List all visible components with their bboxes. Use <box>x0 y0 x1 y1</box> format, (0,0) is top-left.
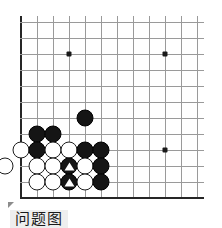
stone-white-c1-r10[interactable] <box>29 174 46 191</box>
stone-black-c4-r6[interactable] <box>77 110 94 127</box>
stone-white-c4-r9[interactable] <box>77 158 94 175</box>
board-line-horizontal-3 <box>20 70 204 71</box>
triangle-mark-icon <box>64 162 74 170</box>
caption-area: 问题图 <box>0 198 222 228</box>
board-line-vertical-10 <box>181 16 182 198</box>
stone-black-c2-r7[interactable] <box>45 126 62 143</box>
stone-black-marked-c3-r9[interactable] <box>61 158 78 175</box>
stone-black-c5-r8[interactable] <box>93 142 110 159</box>
stone-black-marked-c3-r10[interactable] <box>61 174 78 191</box>
stone-black-c5-r9[interactable] <box>93 158 110 175</box>
board-line-vertical-6 <box>117 16 118 198</box>
board-line-horizontal-5 <box>20 102 204 103</box>
stone-white-c3-r8[interactable] <box>61 142 78 159</box>
stone-white-c4-r10[interactable] <box>77 174 94 191</box>
board-line-vertical-9 <box>165 16 166 198</box>
stone-white-c2-r9[interactable] <box>45 158 62 175</box>
star-point-0 <box>67 52 72 57</box>
stone-black-c1-r8[interactable] <box>29 142 46 159</box>
board-line-horizontal-4 <box>20 86 204 87</box>
star-point-2 <box>163 148 168 153</box>
board-line-vertical-7 <box>133 16 134 198</box>
stone-white-c0-r8[interactable] <box>13 142 30 159</box>
board-line-horizontal-0 <box>20 22 204 23</box>
go-board-container[interactable] <box>0 0 222 200</box>
board-line-horizontal-2 <box>20 54 204 55</box>
stone-white-c-1-r9[interactable] <box>0 158 14 175</box>
triangle-mark-icon <box>64 178 74 186</box>
stone-black-c1-r7[interactable] <box>29 126 46 143</box>
triangle-corner-mark-icon <box>8 202 14 208</box>
stone-white-c2-r10[interactable] <box>45 174 62 191</box>
board-line-vertical-8 <box>149 16 150 198</box>
board-line-horizontal-1 <box>20 38 204 39</box>
board-line-horizontal-6 <box>20 118 204 119</box>
star-point-1 <box>163 52 168 57</box>
diagram-caption: 问题图 <box>10 210 68 228</box>
stone-black-c5-r10[interactable] <box>93 174 110 191</box>
board-line-vertical-0 <box>20 16 22 198</box>
go-problem-diagram: 问题图 <box>0 0 222 228</box>
stone-white-c2-r8[interactable] <box>45 142 62 159</box>
stone-black-c4-r8[interactable] <box>77 142 94 159</box>
board-line-vertical-11 <box>197 16 198 198</box>
stone-white-c1-r9[interactable] <box>29 158 46 175</box>
go-board[interactable] <box>0 0 222 200</box>
